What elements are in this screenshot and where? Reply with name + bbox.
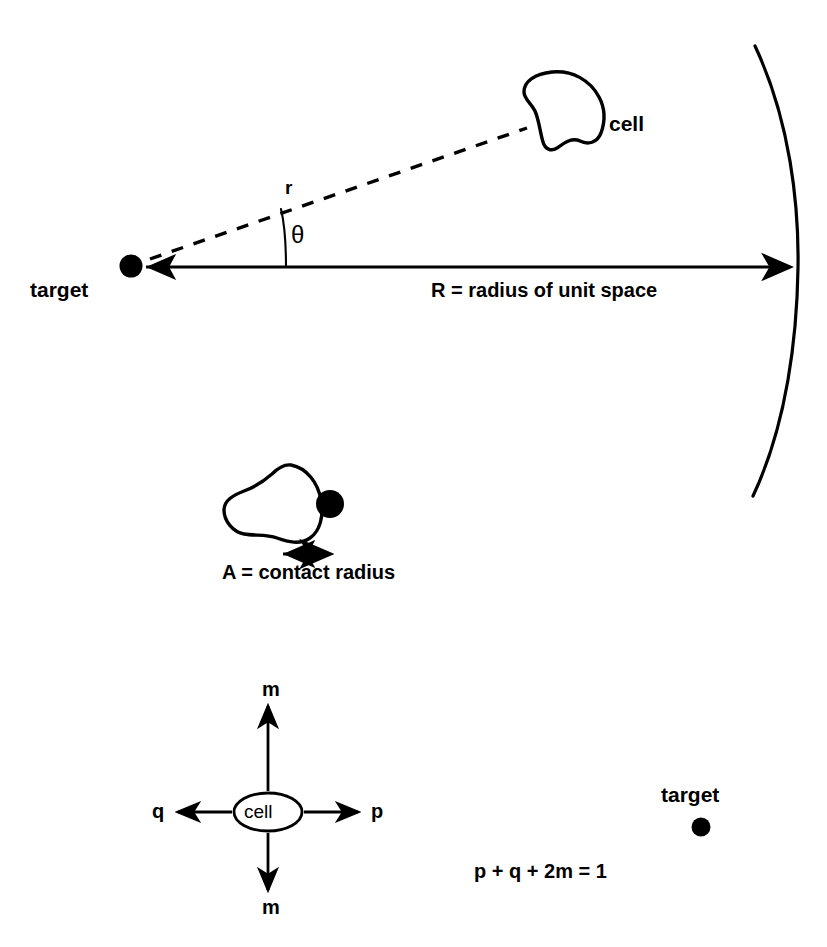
target-dot-icon: [120, 255, 143, 278]
arrow-down-label-m: m: [262, 897, 280, 917]
diagram-canvas: target cell r θ R = radius of unit space…: [0, 0, 827, 947]
contact-dot-icon: [316, 490, 344, 518]
cell-blob-contact-icon: [224, 465, 322, 542]
distance-line-icon: [150, 128, 527, 259]
distance-label-r: r: [285, 178, 292, 197]
angle-label-theta: θ: [291, 223, 304, 247]
cell-blob-icon: [524, 72, 604, 150]
target-label-top: target: [30, 279, 88, 300]
arrow-left-label-q: q: [152, 801, 164, 821]
equation-label: p + q + 2m = 1: [474, 861, 607, 881]
contact-radius-label: A = contact radius: [222, 562, 395, 582]
arrow-up-label-m: m: [262, 679, 280, 699]
cell-label-ellipse: cell: [244, 802, 273, 821]
target-label-bottom: target: [661, 784, 719, 805]
cell-label-top: cell: [609, 113, 644, 134]
angle-arc-icon: [281, 209, 286, 267]
target-dot-bottom-icon: [692, 818, 711, 837]
unit-space-arc-icon: [753, 46, 798, 496]
radius-of-unit-space-label: R = radius of unit space: [431, 280, 657, 300]
arrow-right-label-p: p: [371, 801, 383, 821]
